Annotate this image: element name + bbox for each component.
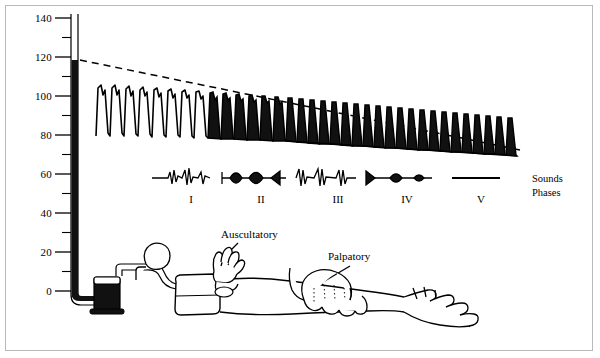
stethoscope-chestpiece <box>215 287 233 297</box>
pulse-wave-open-segment <box>96 85 208 138</box>
y-axis-minor-ticks <box>62 38 71 272</box>
cuff <box>175 274 220 315</box>
examiner-stethoscope-hand <box>213 247 244 291</box>
sound-trace-phase-2 <box>222 171 286 185</box>
figure-artwork <box>0 0 600 358</box>
mercury-column <box>72 60 109 301</box>
figure-stage: 140 120 100 80 60 40 20 0 I II III IV V … <box>0 0 600 358</box>
sound-trace-phase-4 <box>366 171 432 185</box>
sound-trace-phase-1 <box>152 168 210 185</box>
sound-trace-phase-3 <box>296 169 356 186</box>
mercury-reservoir <box>90 277 124 314</box>
pulse-wave-filled-segment <box>286 98 517 156</box>
pulse-wave-transition-segment <box>208 92 286 141</box>
patient-hand <box>404 287 478 327</box>
